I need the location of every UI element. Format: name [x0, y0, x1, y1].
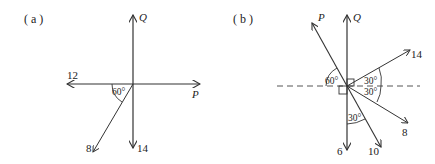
diagram-b: ( b ) P Q 14 8 10 6 60° 30° 30° 30° — [233, 11, 423, 157]
force-diagrams: ( a ) Q P 12 14 8 60° ( b ) P Q 14 8 — [0, 0, 435, 164]
force-14-arrow-b — [347, 50, 410, 86]
angle-arc-30-upper — [379, 68, 381, 86]
label-p-a: P — [191, 88, 199, 100]
diagram-a: ( a ) Q P 12 14 8 60° — [24, 11, 200, 154]
label-14-a: 14 — [137, 142, 149, 154]
angle-arc-30-lower — [377, 86, 381, 102]
panel-label-a: ( a ) — [24, 12, 43, 26]
label-10: 10 — [368, 145, 380, 157]
right-angle-marker-lower — [339, 86, 347, 94]
angle-30-bottom: 30° — [348, 113, 362, 123]
label-12: 12 — [67, 69, 78, 81]
label-8-b: 8 — [402, 126, 408, 138]
label-p-b: P — [317, 11, 325, 23]
angle-60-a: 60° — [112, 87, 126, 97]
label-8-a: 8 — [86, 142, 92, 154]
panel-label-b: ( b ) — [233, 12, 253, 26]
angle-60-b: 60° — [325, 76, 339, 86]
angle-30-lower: 30° — [364, 87, 378, 97]
label-q-b: Q — [353, 11, 361, 23]
label-14-b: 14 — [411, 48, 423, 60]
angle-30-upper: 30° — [364, 76, 378, 86]
label-6: 6 — [337, 145, 343, 157]
label-q-a: Q — [139, 11, 147, 23]
